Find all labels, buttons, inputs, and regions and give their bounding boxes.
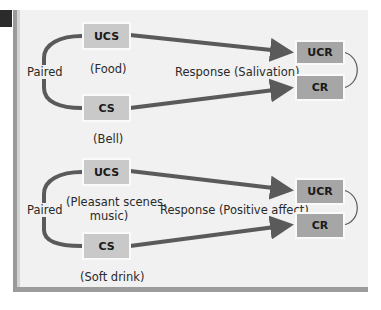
ucs-to-ucr-arrow-2 xyxy=(130,171,290,190)
ucs-caption-line2: music) xyxy=(66,209,152,223)
ucs-caption-1: (Food) xyxy=(90,62,127,76)
cs-caption-2: (Soft drink) xyxy=(80,270,145,284)
ucr-label: UCR xyxy=(307,185,332,198)
ucr-box-1: UCR xyxy=(295,40,345,65)
cs-to-cr-arrow-1 xyxy=(130,88,290,108)
ucr-box-2: UCR xyxy=(295,178,345,205)
cs-caption-1: (Bell) xyxy=(93,132,123,146)
cr-label: CR xyxy=(312,81,329,94)
cr-label: CR xyxy=(312,219,329,232)
cs-label: CS xyxy=(98,102,114,115)
ucs-caption-2: (Pleasant scenes, music) xyxy=(66,195,152,223)
ucs-label: UCS xyxy=(94,166,119,179)
ucs-box-1: UCS xyxy=(82,22,131,50)
cs-box-2: CS xyxy=(82,232,131,260)
cs-label: CS xyxy=(98,240,114,253)
ucr-cr-link-1 xyxy=(343,52,357,88)
ucr-cr-link-2 xyxy=(343,190,357,225)
cs-to-cr-arrow-2 xyxy=(130,225,290,246)
cs-box-1: CS xyxy=(82,94,131,122)
ucr-label: UCR xyxy=(307,46,332,59)
ucs-caption-line1: (Pleasant scenes, xyxy=(66,195,152,209)
paired-label-1: Paired xyxy=(27,65,63,79)
response-label-2: Response (Positive affect) xyxy=(160,203,309,217)
response-label-1: Response (Salivation) xyxy=(175,65,299,79)
cr-box-2: CR xyxy=(295,212,345,239)
ucs-to-ucr-arrow-1 xyxy=(130,35,290,52)
cr-box-1: CR xyxy=(295,74,345,101)
paired-label-2: Paired xyxy=(27,203,63,217)
ucs-label: UCS xyxy=(94,30,119,43)
ucs-box-2: UCS xyxy=(82,158,131,186)
